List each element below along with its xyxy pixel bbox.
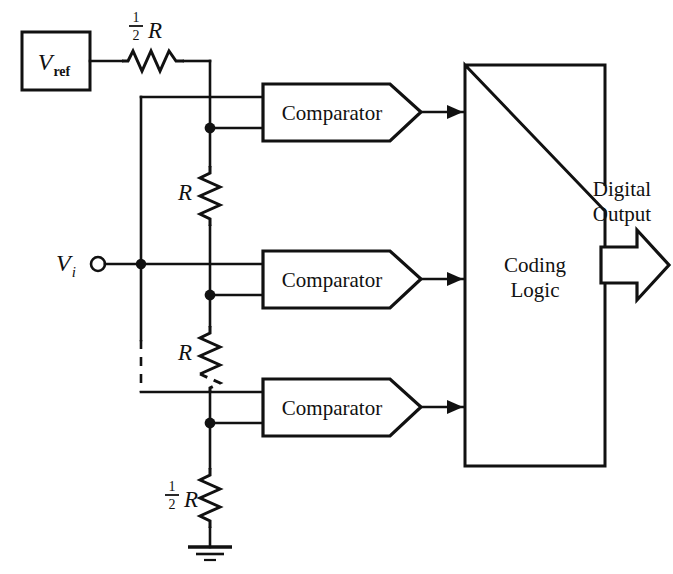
junction-dot-ladder-3 bbox=[205, 418, 216, 429]
vi-label: Vi bbox=[56, 250, 76, 280]
coding-logic-label-line1: Coding bbox=[504, 253, 566, 277]
comparator-1-label: Comparator bbox=[282, 101, 382, 125]
svg-text:R: R bbox=[183, 487, 198, 512]
arrowhead-comparator-2 bbox=[447, 272, 463, 286]
resistor-ladder-2-label: R bbox=[177, 340, 192, 365]
resistor-ladder-2-continuation bbox=[200, 374, 220, 392]
digital-output-label-line1: Digital bbox=[593, 177, 651, 201]
arrowhead-comparator-1 bbox=[447, 105, 463, 119]
resistor-bottom-half-r-label: 1 2 R bbox=[165, 479, 198, 512]
resistor-bottom-half-r bbox=[200, 468, 220, 528]
arrowhead-comparator-3 bbox=[447, 400, 463, 414]
resistor-ladder-1 bbox=[200, 166, 220, 226]
junction-dot-vi bbox=[136, 259, 146, 269]
vref-source-box bbox=[22, 32, 90, 90]
resistor-top-half-r-label: 1 2 R bbox=[129, 10, 162, 43]
coding-logic-label-line2: Logic bbox=[511, 278, 560, 302]
junction-dot-ladder-2 bbox=[205, 290, 216, 301]
resistor-ladder-2 bbox=[200, 326, 220, 374]
comparator-2-label: Comparator bbox=[282, 268, 382, 292]
vi-input-terminal bbox=[91, 257, 105, 271]
resistor-ladder-1-label: R bbox=[177, 180, 192, 205]
svg-text:R: R bbox=[147, 18, 162, 43]
junction-dot-ladder-1 bbox=[205, 123, 216, 134]
svg-text:1: 1 bbox=[169, 479, 176, 494]
svg-text:2: 2 bbox=[169, 497, 176, 512]
digital-output-label-line2: Output bbox=[593, 202, 652, 226]
digital-output-arrow bbox=[601, 230, 669, 300]
svg-text:2: 2 bbox=[133, 28, 140, 43]
circuit-diagram: Vref 1 2 R R R 1 2 bbox=[0, 0, 673, 574]
svg-text:1: 1 bbox=[133, 10, 140, 25]
resistor-top-half-r bbox=[122, 51, 184, 71]
comparator-3-label: Comparator bbox=[282, 396, 382, 420]
ground-symbol bbox=[188, 547, 232, 560]
